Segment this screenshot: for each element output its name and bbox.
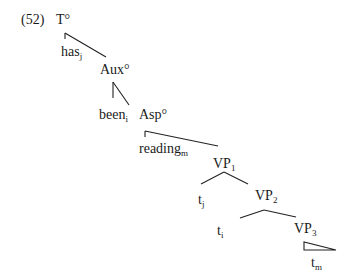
branch-asp-vp1 (145, 131, 218, 146)
branch-vp1-tj (201, 172, 224, 184)
vp3-triangle (304, 242, 336, 250)
branch-vp2-vp3 (264, 210, 296, 217)
tree-branches (0, 0, 353, 278)
branch-aux-asp (113, 82, 129, 105)
branch-vp2-ti (240, 210, 264, 218)
branch-vp1-vp2 (224, 172, 248, 184)
branch-t-aux (65, 33, 106, 57)
